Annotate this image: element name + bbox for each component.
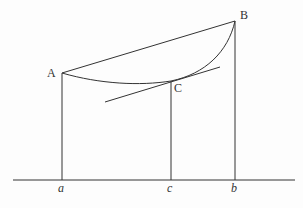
label-point-a: A — [47, 66, 56, 80]
label-tick-c: c — [167, 181, 173, 195]
label-tick-b: b — [231, 181, 237, 195]
label-point-c: C — [174, 81, 182, 95]
diagram-svg: A B C a c b — [0, 0, 303, 208]
curve-acb — [62, 21, 235, 84]
label-point-b: B — [240, 8, 248, 22]
tangent-line-c — [105, 67, 220, 102]
diagram-canvas: A B C a c b — [0, 0, 303, 208]
chord-ab — [62, 21, 235, 73]
label-tick-a: a — [58, 181, 64, 195]
